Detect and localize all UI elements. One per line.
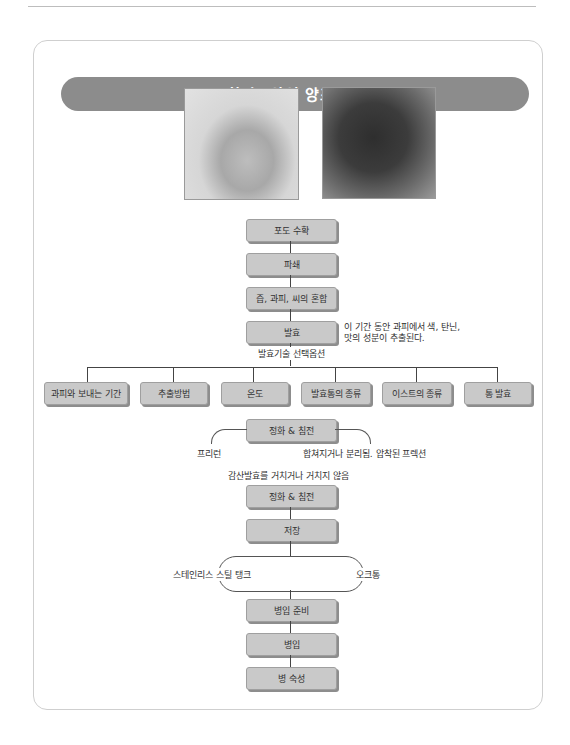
storage-oak-label: 오크통 xyxy=(354,568,382,581)
connector xyxy=(87,367,88,382)
storage-stainless-label: 스테인리스 스틸 탱크 xyxy=(173,568,254,581)
options-label: 발효기술 선택옵션 xyxy=(256,347,327,360)
step-bottling-prep: 병입 준비 xyxy=(246,599,337,622)
white-grapes-image xyxy=(184,88,299,200)
connector xyxy=(290,541,291,557)
option-extraction: 추출방법 xyxy=(140,382,208,405)
malolactic-label: 감산발효를 거치거나 거치지 않음 xyxy=(228,469,349,482)
connector xyxy=(173,367,174,382)
fermentation-note-line2: 맛의 성분이 추출된다. xyxy=(344,331,425,344)
free-run-label: 프리런 xyxy=(197,447,221,460)
option-temperature: 온도 xyxy=(221,382,289,405)
connector xyxy=(290,590,291,599)
option-barrel-fermentation: 통 발효 xyxy=(464,382,532,405)
option-yeast-type: 이스트의 종류 xyxy=(382,382,452,405)
connector xyxy=(416,367,417,382)
step-storage: 저장 xyxy=(246,519,337,542)
options-bar xyxy=(87,367,498,368)
step-fermentation: 발효 xyxy=(246,321,337,344)
branch-curve-right xyxy=(335,429,371,444)
connector xyxy=(253,367,254,382)
connector xyxy=(497,367,498,382)
step-harvest: 포도 수확 xyxy=(246,219,337,242)
connector xyxy=(290,309,291,321)
top-divider xyxy=(28,6,536,7)
step-clarification-1: 정화 & 침전 xyxy=(246,419,337,442)
option-vessel-type: 발효통의 종류 xyxy=(301,382,371,405)
option-skin-contact: 과피와 보내는 기간 xyxy=(44,382,128,405)
step-mix: 즙, 과피, 씨의 혼합 xyxy=(246,287,337,310)
connector xyxy=(290,507,291,519)
step-bottling: 병입 xyxy=(246,633,337,656)
press-fraction-label: 합쳐지거나 분리됨. 압착된 프렉션 xyxy=(303,447,426,460)
connector xyxy=(290,621,291,633)
red-grapes-image xyxy=(322,87,436,199)
branch-curve-left xyxy=(211,429,247,444)
connector xyxy=(335,367,336,382)
step-crush: 파쇄 xyxy=(246,253,337,276)
connector xyxy=(290,655,291,667)
connector xyxy=(290,275,291,287)
step-bottle-aging: 병 숙성 xyxy=(246,667,337,690)
connector xyxy=(290,241,291,253)
step-clarification-2: 정화 & 침전 xyxy=(246,485,337,508)
